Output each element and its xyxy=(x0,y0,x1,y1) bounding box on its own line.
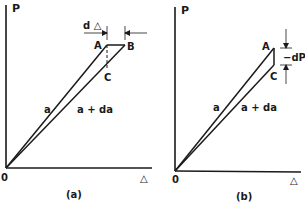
point-a-label: A xyxy=(94,40,102,51)
point-c-label: C xyxy=(270,71,277,82)
line-a-plus-da xyxy=(175,65,274,171)
panel-b: P 0 △ (b) A C a a + da −dP xyxy=(172,4,305,202)
x-axis-label: △ xyxy=(140,173,148,184)
x-axis-label: △ xyxy=(290,175,298,186)
y-axis-label: P xyxy=(181,4,189,17)
y-axis-label: P xyxy=(12,2,20,15)
point-a-label: A xyxy=(262,41,270,52)
line-a-plus-da-label: a + da xyxy=(241,102,277,113)
delta-axis xyxy=(175,171,301,172)
increment-label: d △ xyxy=(83,20,102,31)
origin-label: 0 xyxy=(1,172,8,183)
line-a-plus-da-label: a + da xyxy=(77,104,113,115)
point-c-label: C xyxy=(104,72,111,83)
line-a-label: a xyxy=(44,104,51,115)
panel-a: P 0 △ (a) A B C a a + da d △ xyxy=(1,2,152,200)
load-displacement-diagram: P 0 △ (a) A B C a a + da d △ P 0 △ (b) A… xyxy=(0,0,305,206)
increment-label: −dP xyxy=(283,52,305,63)
line-a-label: a xyxy=(213,102,220,113)
point-b-label: B xyxy=(127,41,135,52)
origin-label: 0 xyxy=(172,174,179,185)
caption: (b) xyxy=(236,191,252,202)
caption: (a) xyxy=(66,189,82,200)
